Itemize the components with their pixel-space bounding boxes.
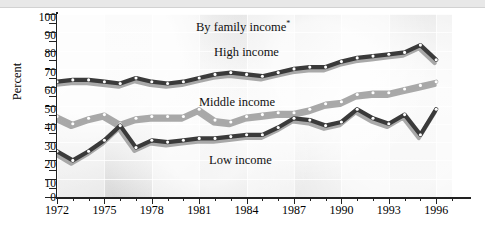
data-point (371, 91, 374, 94)
x-axis-label-1981: 1981 (187, 203, 211, 218)
data-point (419, 133, 422, 136)
x-axis-label-1975: 1975 (92, 203, 116, 218)
data-point (229, 71, 232, 74)
data-point (134, 117, 137, 120)
data-point (308, 66, 311, 69)
series-label-high-income: High income (214, 45, 279, 60)
x-tick-1991 (357, 197, 358, 201)
y-axis-labels: 100 90 80 70 60 50 40 30 20 10 0 (0, 0, 56, 229)
x-tick-1986 (278, 197, 279, 201)
y-tick-55 (49, 96, 56, 97)
x-axis-label-1996: 1996 (424, 203, 448, 218)
data-point (166, 141, 169, 144)
x-axis-label-1990: 1990 (329, 203, 353, 218)
data-point (340, 60, 343, 63)
data-point (403, 51, 406, 54)
data-point (308, 119, 311, 122)
data-point (119, 124, 122, 127)
x-tick-1977 (136, 197, 137, 201)
data-point (182, 80, 185, 83)
data-point (387, 91, 390, 94)
data-point (103, 80, 106, 83)
x-tick-1973 (73, 197, 74, 201)
x-tick-1988 (310, 197, 311, 201)
x-tick-1994 (405, 197, 406, 201)
data-point (356, 93, 359, 96)
series-label-middle-income: Middle income (199, 95, 275, 110)
data-point (87, 117, 90, 120)
data-point (435, 58, 438, 61)
x-axis-label-1972: 1972 (45, 203, 69, 218)
x-tick-1976 (120, 197, 121, 201)
data-point (261, 113, 264, 116)
y-tick-40 (45, 124, 56, 125)
y-tick-25 (49, 151, 56, 152)
y-tick-15 (49, 170, 56, 171)
data-point (182, 115, 185, 118)
y-tick-60 (45, 87, 56, 88)
y-tick-10 (45, 179, 56, 180)
data-point (261, 133, 264, 136)
data-point (87, 150, 90, 153)
data-point (371, 55, 374, 58)
data-point (213, 119, 216, 122)
x-axis-label-1978: 1978 (140, 203, 164, 218)
x-tick-1997 (452, 197, 453, 201)
data-point (103, 113, 106, 116)
data-point (166, 115, 169, 118)
data-point (87, 78, 90, 81)
y-tick-0 (45, 197, 56, 198)
data-point (213, 73, 216, 76)
top-rule-shadow (0, 7, 485, 8)
data-point (245, 115, 248, 118)
top-rule (0, 0, 485, 7)
y-tick-90 (45, 32, 56, 33)
x-tick-1992 (373, 197, 374, 201)
x-axis-line (56, 197, 471, 199)
data-point (292, 67, 295, 70)
data-point (134, 146, 137, 149)
data-point (435, 80, 438, 83)
y-tick-5 (49, 188, 56, 189)
chart-figure: 100 90 80 70 60 50 40 30 20 10 0 Percent… (0, 0, 485, 229)
data-point (371, 117, 374, 120)
data-point (356, 56, 359, 59)
x-tick-1995 (420, 197, 421, 201)
data-point (71, 122, 74, 125)
data-point (134, 76, 137, 79)
x-tick-1983 (231, 197, 232, 201)
data-point (340, 100, 343, 103)
x-tick-1989 (326, 197, 327, 201)
x-tick-1980 (183, 197, 184, 201)
data-point (277, 111, 280, 114)
y-tick-100 (45, 14, 56, 15)
data-point (150, 139, 153, 142)
data-point (198, 137, 201, 140)
data-point (324, 102, 327, 105)
x-axis-label-1987: 1987 (282, 203, 306, 218)
data-point (261, 75, 264, 78)
data-point (277, 126, 280, 129)
data-point (213, 137, 216, 140)
y-tick-75 (49, 60, 56, 61)
chart-title-footnote-marker: * (286, 19, 290, 28)
y-tick-20 (45, 160, 56, 161)
x-axis-label-1984: 1984 (235, 203, 259, 218)
data-point (150, 80, 153, 83)
data-point (292, 117, 295, 120)
data-point (403, 87, 406, 90)
y-tick-35 (49, 133, 56, 134)
y-tick-50 (45, 106, 56, 107)
data-point (277, 71, 280, 74)
chart-title-text: By family income (196, 20, 286, 34)
data-point (435, 108, 438, 111)
data-point (324, 66, 327, 69)
data-point (356, 108, 359, 111)
data-point (292, 111, 295, 114)
y-tick-80 (45, 51, 56, 52)
data-point (340, 120, 343, 123)
data-point (71, 159, 74, 162)
data-point (119, 82, 122, 85)
data-point (198, 76, 201, 79)
chart-title: By family income* (196, 19, 290, 35)
